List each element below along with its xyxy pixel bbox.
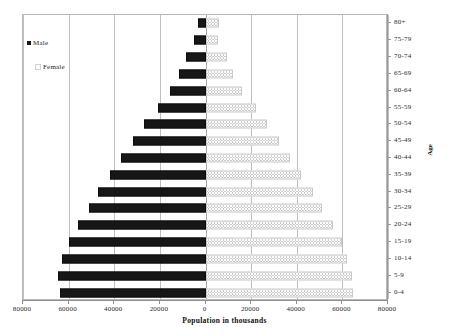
x-tick-label: 80000 xyxy=(378,305,397,313)
bar-male-10-14[interactable] xyxy=(62,254,206,263)
y-tick-label-65-69: 65-69 xyxy=(394,69,411,77)
bar-row xyxy=(23,234,386,251)
bar-female-0-4[interactable] xyxy=(206,288,353,297)
bar-male-20-24[interactable] xyxy=(78,221,206,230)
bar-row xyxy=(23,133,386,150)
x-tick xyxy=(205,300,206,304)
bar-female-20-24[interactable] xyxy=(206,221,334,230)
bar-male-70-74[interactable] xyxy=(186,53,205,62)
y-tick xyxy=(387,275,391,276)
y-tick-label-70-74: 70-74 xyxy=(394,52,411,60)
x-tick xyxy=(341,300,342,304)
x-tick-label: 80000 xyxy=(13,305,32,313)
bar-female-50-54[interactable] xyxy=(206,120,268,129)
legend: MaleFemale xyxy=(27,36,101,74)
bar-female-45-49[interactable] xyxy=(206,137,279,146)
x-tick xyxy=(387,300,388,304)
y-tick xyxy=(387,191,391,192)
y-tick-label-60-64: 60-64 xyxy=(394,86,411,94)
bar-row xyxy=(23,150,386,167)
bar-male-80+[interactable] xyxy=(198,19,206,28)
y-tick-label-0-4: 0-4 xyxy=(394,288,404,296)
y-tick xyxy=(387,73,391,74)
bar-female-25-29[interactable] xyxy=(206,204,322,213)
x-tick-label: 20000 xyxy=(150,305,169,313)
bar-female-35-39[interactable] xyxy=(206,170,302,179)
bar-male-75-79[interactable] xyxy=(194,36,205,45)
y-tick xyxy=(387,140,391,141)
y-tick-label-30-34: 30-34 xyxy=(394,187,411,195)
bar-male-55-59[interactable] xyxy=(158,103,206,112)
x-tick xyxy=(113,300,114,304)
x-axis: 8000060000400002000002000040000600008000… xyxy=(22,300,387,301)
bar-male-65-69[interactable] xyxy=(179,69,205,78)
y-tick-label-25-29: 25-29 xyxy=(394,203,411,211)
y-tick xyxy=(387,39,391,40)
y-tick-label-80+: 80+ xyxy=(394,18,406,26)
bar-female-10-14[interactable] xyxy=(206,254,347,263)
bar-female-80+[interactable] xyxy=(206,19,220,28)
bar-female-30-34[interactable] xyxy=(206,187,313,196)
bar-male-15-19[interactable] xyxy=(69,238,206,247)
bar-male-0-4[interactable] xyxy=(60,288,206,297)
y-tick-label-50-54: 50-54 xyxy=(394,119,411,127)
y-tick xyxy=(387,123,391,124)
bar-row xyxy=(23,251,386,268)
population-pyramid-chart: 8000060000400002000002000040000600008000… xyxy=(0,0,449,336)
bar-female-70-74[interactable] xyxy=(206,53,228,62)
y-tick-label-35-39: 35-39 xyxy=(394,170,411,178)
y-tick xyxy=(387,224,391,225)
legend-label: Male xyxy=(33,39,48,47)
y-tick-label-55-59: 55-59 xyxy=(394,103,411,111)
y-tick xyxy=(387,241,391,242)
bar-male-25-29[interactable] xyxy=(89,204,205,213)
bar-female-75-79[interactable] xyxy=(206,36,219,45)
y-tick-label-20-24: 20-24 xyxy=(394,220,411,228)
legend-label: Female xyxy=(43,63,65,71)
y-tick-label-15-19: 15-19 xyxy=(394,237,411,245)
bar-female-15-19[interactable] xyxy=(206,238,343,247)
y-axis xyxy=(387,14,388,300)
bar-female-65-69[interactable] xyxy=(206,69,233,78)
female-swatch-icon xyxy=(35,64,41,70)
y-tick xyxy=(387,292,391,293)
bar-row xyxy=(23,82,386,99)
x-tick xyxy=(296,300,297,304)
bar-male-40-44[interactable] xyxy=(121,153,205,162)
bar-row xyxy=(23,15,386,32)
y-tick xyxy=(387,207,391,208)
bar-male-5-9[interactable] xyxy=(58,271,205,280)
x-tick-label: 20000 xyxy=(241,305,260,313)
y-tick xyxy=(387,258,391,259)
bar-row xyxy=(23,284,386,301)
bar-row xyxy=(23,267,386,284)
bar-row xyxy=(23,166,386,183)
bar-row xyxy=(23,99,386,116)
y-tick-label-75-79: 75-79 xyxy=(394,35,411,43)
legend-item-female[interactable]: Female xyxy=(27,60,101,74)
bar-row xyxy=(23,217,386,234)
bar-female-5-9[interactable] xyxy=(206,271,352,280)
bar-male-35-39[interactable] xyxy=(110,170,206,179)
bar-female-60-64[interactable] xyxy=(206,86,243,95)
bar-male-60-64[interactable] xyxy=(170,86,205,95)
bar-male-30-34[interactable] xyxy=(98,187,205,196)
bar-female-40-44[interactable] xyxy=(206,153,290,162)
bar-female-55-59[interactable] xyxy=(206,103,256,112)
legend-item-male[interactable]: Male xyxy=(27,36,101,50)
y-tick-label-40-44: 40-44 xyxy=(394,153,411,161)
x-tick xyxy=(68,300,69,304)
bar-row xyxy=(23,200,386,217)
y-tick-label-10-14: 10-14 xyxy=(394,254,411,262)
bar-male-50-54[interactable] xyxy=(144,120,206,129)
x-tick-label: 60000 xyxy=(58,305,77,313)
y-tick xyxy=(387,90,391,91)
x-tick-label: 60000 xyxy=(332,305,351,313)
y-tick xyxy=(387,56,391,57)
x-tick-label: 40000 xyxy=(104,305,123,313)
y-tick xyxy=(387,22,391,23)
bar-male-45-49[interactable] xyxy=(133,137,206,146)
y-tick xyxy=(387,107,391,108)
y-axis-title: Age xyxy=(426,144,434,156)
y-tick-label-45-49: 45-49 xyxy=(394,136,411,144)
